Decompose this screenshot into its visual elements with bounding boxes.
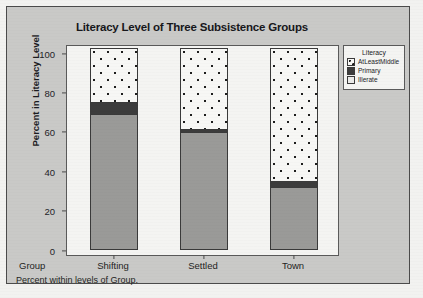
y-tick-label-0: 0 <box>25 246 55 257</box>
chart-footnote: Percent within levels of Group. <box>16 275 138 285</box>
legend-item-label: Primary <box>358 67 380 75</box>
segment-atleastmiddle <box>181 49 227 129</box>
legend-title: Literacy <box>347 49 401 56</box>
x-tick-label-town: Town <box>248 260 338 271</box>
segment-primary <box>91 102 137 114</box>
segment-illerate <box>91 114 137 249</box>
dark-gray-swatch-icon <box>347 67 355 75</box>
x-tick-mark <box>113 255 114 259</box>
legend-item-label: Illerate <box>358 76 378 84</box>
x-tick-mark <box>293 255 294 259</box>
legend: Literacy AtLeastMiddle Primary Illerate <box>343 45 405 90</box>
segment-atleastmiddle <box>91 49 137 102</box>
legend-item-atleastmiddle[interactable]: AtLeastMiddle <box>347 58 401 66</box>
segment-illerate <box>271 187 317 249</box>
y-tick-label-80: 80 <box>25 88 55 99</box>
legend-item-label: AtLeastMiddle <box>358 58 399 66</box>
bar-shifting[interactable] <box>90 48 138 250</box>
chart-figure: Literacy Level of Three Subsistence Grou… <box>6 6 410 284</box>
y-tick-label-100: 100 <box>25 49 55 60</box>
light-gray-swatch-icon <box>347 76 355 84</box>
dotted-swatch-icon <box>347 58 355 66</box>
segment-illerate <box>181 132 227 249</box>
plot-area <box>66 45 339 256</box>
x-tick-mark <box>203 255 204 259</box>
bar-town[interactable] <box>270 48 318 250</box>
legend-item-illerate[interactable]: Illerate <box>347 76 401 84</box>
x-tick-label-shifting: Shifting <box>68 260 158 271</box>
page-title: Literacy Level of Three Subsistence Grou… <box>47 21 337 33</box>
segment-atleastmiddle <box>271 49 317 181</box>
x-tick-label-settled: Settled <box>158 260 248 271</box>
y-tick-label-40: 40 <box>25 167 55 178</box>
bar-settled[interactable] <box>180 48 228 250</box>
x-axis-title: Group <box>19 260 45 271</box>
legend-item-primary[interactable]: Primary <box>347 67 401 75</box>
scanned-page: Literacy Level of Three Subsistence Grou… <box>0 0 423 298</box>
y-tick-label-20: 20 <box>25 206 55 217</box>
y-tick-label-60: 60 <box>25 127 55 138</box>
